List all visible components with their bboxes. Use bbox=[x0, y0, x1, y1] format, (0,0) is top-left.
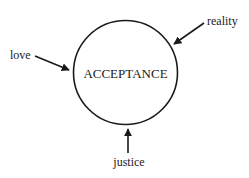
love-arrow-icon bbox=[35, 56, 69, 70]
reality-arrow-icon bbox=[174, 23, 204, 44]
love-label: love bbox=[10, 48, 31, 62]
center-label: ACCEPTANCE bbox=[83, 66, 167, 81]
reality-label: reality bbox=[207, 14, 238, 28]
justice-label: justice bbox=[112, 155, 144, 169]
diagram-canvas: ACCEPTANCE love reality justice bbox=[0, 0, 249, 178]
